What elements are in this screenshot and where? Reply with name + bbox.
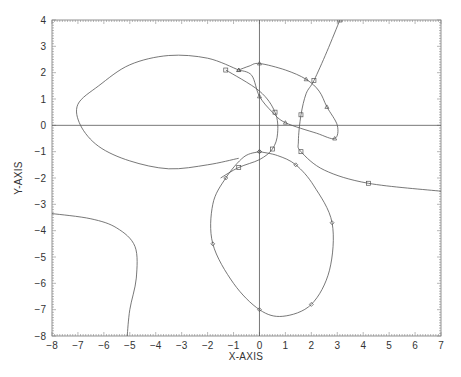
x-tick-label: −2: [202, 340, 214, 351]
series-lower-ellipse: [211, 150, 334, 317]
x-tick-label: 7: [438, 340, 444, 351]
curves: [52, 18, 441, 336]
y-tick-label: −4: [35, 225, 47, 236]
x-tick-label: 1: [283, 340, 289, 351]
y-tick-label: 4: [40, 15, 46, 26]
y-tick-label: −8: [35, 331, 47, 342]
x-tick-label: −1: [228, 340, 240, 351]
series-right-curve: [298, 18, 441, 191]
square-marker: [224, 68, 228, 72]
x-tick-label: 3: [334, 340, 340, 351]
x-tick-label: −4: [150, 340, 162, 351]
x-axis-title: X-AXIS: [229, 351, 264, 362]
series-upper-branch: [221, 68, 278, 178]
x-tick-label: −5: [124, 340, 136, 351]
x-tick-label: 2: [309, 340, 315, 351]
series-left-ellipse: [76, 55, 238, 169]
curve-lower-ellipse: [211, 152, 334, 317]
x-tick-label: −8: [46, 340, 58, 351]
x-tick-labels: −8−7−6−5−4−3−2−101234567: [46, 340, 444, 351]
curve-upper-branch: [221, 70, 278, 178]
y-tick-label: −5: [35, 252, 47, 263]
y-tick-label: −1: [35, 146, 47, 157]
x-tick-label: 5: [386, 340, 392, 351]
y-axis-title: Y-AXIS: [13, 161, 24, 195]
series-tilted-ellipse: [237, 61, 338, 140]
y-tick-label: 2: [40, 67, 46, 78]
y-tick-labels: 43210−1−2−3−4−5−6−7−8: [35, 15, 47, 342]
series-bottom-left-curve: [52, 214, 137, 336]
chart: −8−7−6−5−4−3−2−101234567 43210−1−2−3−4−5…: [0, 0, 461, 377]
x-tick-label: −3: [176, 340, 188, 351]
y-tick-label: −7: [35, 304, 47, 315]
y-tick-label: 3: [40, 41, 46, 52]
x-tick-label: −7: [72, 340, 84, 351]
curve-bottom-left-curve: [52, 214, 137, 336]
y-tick-label: 1: [40, 94, 46, 105]
y-tick-label: −6: [35, 278, 47, 289]
curve-left-ellipse: [76, 55, 238, 169]
y-tick-label: 0: [40, 120, 46, 131]
x-tick-label: 4: [360, 340, 366, 351]
x-tick-label: 0: [257, 340, 263, 351]
curve-tilted-ellipse: [239, 63, 338, 138]
curve-right-curve: [298, 20, 441, 191]
x-tick-label: −6: [98, 340, 110, 351]
y-tick-label: −3: [35, 199, 47, 210]
y-tick-label: −2: [35, 173, 47, 184]
x-tick-label: 6: [412, 340, 418, 351]
